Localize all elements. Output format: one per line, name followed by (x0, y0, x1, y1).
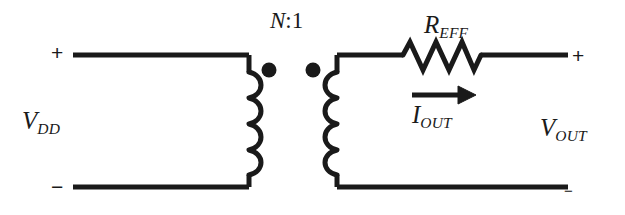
secondary-coil (325, 72, 337, 175)
output-voltage-subscript: OUT (555, 127, 587, 144)
turns-ratio-label: N:1 (270, 9, 303, 32)
input-voltage-symbol: V (22, 107, 37, 134)
output-voltage-symbol: V (540, 114, 555, 141)
resistor-subscript: EFF (439, 24, 468, 41)
resistor-zigzag (403, 42, 481, 70)
input-minus-sign: − (51, 176, 63, 197)
input-voltage-subscript: DD (37, 120, 60, 137)
polarity-dot-primary (262, 63, 277, 78)
output-minus-sign: − (564, 183, 573, 198)
primary-coil (249, 72, 261, 175)
circuit-schematic-svg (0, 0, 625, 215)
output-plus-sign: + (572, 45, 584, 66)
output-voltage-label: VOUT (540, 115, 587, 140)
circuit-diagram-canvas: + − VDD N:1 REFF IOUT + − VOUT (0, 0, 625, 215)
current-label: IOUT (412, 102, 452, 127)
input-voltage-label: VDD (22, 108, 60, 133)
resistor-symbol: R (424, 11, 439, 38)
turns-ratio-symbol: N (270, 8, 285, 33)
turns-ratio-value: :1 (285, 8, 303, 33)
polarity-dot-secondary (306, 63, 321, 78)
input-plus-sign: + (51, 42, 63, 63)
resistor-label: REFF (424, 12, 468, 37)
current-subscript: OUT (420, 114, 452, 131)
primary-side-group (73, 55, 261, 187)
current-arrow-head (458, 86, 476, 104)
